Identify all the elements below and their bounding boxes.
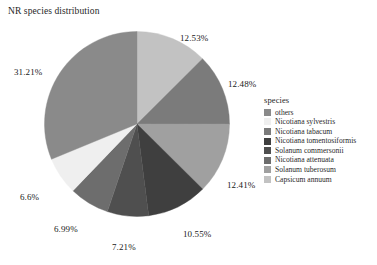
legend-item-label: Solanum commersonii — [275, 146, 344, 156]
legend-color-swatch — [264, 176, 271, 183]
legend-item[interactable]: Nicotiana tabacum — [264, 127, 377, 137]
legend-item[interactable]: Nicotiana attenuata — [264, 155, 377, 165]
legend-color-swatch — [264, 166, 271, 173]
legend-color-swatch — [264, 109, 271, 116]
legend-item-label: Nicotiana sylvestris — [275, 117, 335, 127]
legend-title: species — [264, 95, 377, 105]
pie-slice-percent-label: 7.21% — [112, 242, 136, 252]
pie-slice-percent-label: 12.53% — [180, 33, 208, 43]
legend-item[interactable]: Nicotiana sylvestris — [264, 117, 377, 127]
pie-slice-percent-label: 12.41% — [227, 180, 255, 190]
legend-item-label: Nicotiana tomentosiformis — [275, 136, 356, 146]
legend-item[interactable]: Nicotiana tomentosiformis — [264, 136, 377, 146]
legend-item-label: others — [275, 108, 294, 118]
legend-item[interactable]: Solanum commersonii — [264, 146, 377, 156]
pie-slice-percent-label: 10.55% — [183, 229, 211, 239]
legend-color-swatch — [264, 118, 271, 125]
pie-chart-figure: NR species distribution 12.53%12.48%12.4… — [0, 0, 377, 265]
legend-item-label: Nicotiana tabacum — [275, 127, 332, 137]
pie-chart-plot-area — [44, 31, 230, 217]
legend-item-label: Capsicum annuum — [275, 175, 332, 185]
legend-color-swatch — [264, 147, 271, 154]
pie-slice-percent-label: 31.21% — [14, 67, 42, 77]
legend: species othersNicotiana sylvestrisNicoti… — [264, 95, 377, 184]
legend-color-swatch — [264, 138, 271, 145]
legend-color-swatch — [264, 128, 271, 135]
legend-item[interactable]: Capsicum annuum — [264, 175, 377, 185]
pie-svg — [44, 31, 230, 217]
legend-item[interactable]: others — [264, 108, 377, 118]
pie-slice-percent-label: 6.99% — [54, 224, 78, 234]
legend-items: othersNicotiana sylvestrisNicotiana taba… — [264, 108, 377, 185]
pie-slice-percent-label: 6.6% — [20, 192, 39, 202]
legend-color-swatch — [264, 157, 271, 164]
legend-item[interactable]: Solanum tuberosum — [264, 165, 377, 175]
page-title: NR species distribution — [8, 6, 100, 16]
legend-item-label: Nicotiana attenuata — [275, 155, 334, 165]
legend-item-label: Solanum tuberosum — [275, 165, 336, 175]
pie-slice-percent-label: 12.48% — [228, 79, 256, 89]
